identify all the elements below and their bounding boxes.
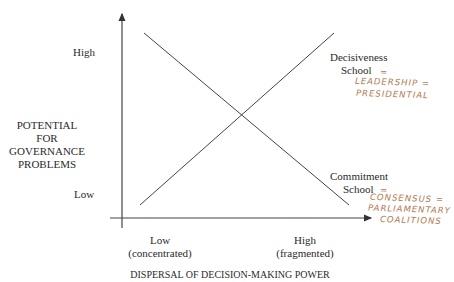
x-low-label: Low bbox=[120, 234, 200, 247]
commitment-label: Commitment bbox=[330, 170, 388, 183]
commitment-line bbox=[144, 33, 349, 205]
x-high-label: High bbox=[265, 234, 345, 247]
decisiveness-line bbox=[140, 33, 334, 205]
y-axis-title: POTENTIAL FOR GOVERNANCE PROBLEMS bbox=[4, 119, 90, 171]
x-low-sublabel: (concentrated) bbox=[120, 247, 200, 260]
decisiveness-label: Decisiveness bbox=[330, 51, 387, 64]
decisiveness-eq: = bbox=[380, 67, 388, 77]
y-title-line: GOVERNANCE bbox=[4, 145, 90, 158]
commitment-note-3: COALITIONS bbox=[380, 214, 442, 226]
x-high-sublabel: (fragmented) bbox=[265, 247, 345, 260]
y-high-label: High bbox=[64, 46, 104, 59]
commitment-school-label: School bbox=[343, 183, 374, 196]
x-axis-title: DISPERSAL OF DECISION-MAKING POWER bbox=[80, 268, 380, 281]
y-title-line: PROBLEMS bbox=[4, 158, 90, 171]
y-title-line: POTENTIAL bbox=[4, 119, 90, 132]
y-low-label: Low bbox=[64, 188, 104, 201]
y-title-line: FOR bbox=[4, 132, 90, 145]
